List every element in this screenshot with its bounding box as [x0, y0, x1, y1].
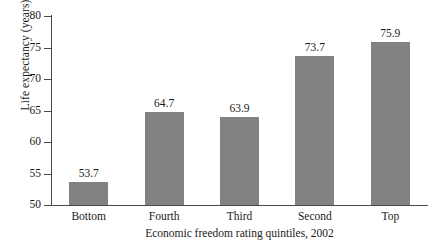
y-tick-label: 75 [0, 42, 41, 54]
y-tick-label-text: 70 [1, 73, 41, 85]
y-tick-mark [44, 174, 51, 175]
y-axis-line [51, 15, 52, 206]
y-tick-label-text: 50 [1, 199, 41, 211]
bar [69, 182, 108, 205]
bar-chart: Life expectancy (years) 50556065707580 5… [0, 0, 437, 247]
y-tick-label: 65 [0, 105, 41, 117]
y-tick-label-text: 75 [1, 42, 41, 54]
bar-value-label: 53.7 [59, 167, 119, 179]
bar-value-label: 73.7 [285, 41, 345, 53]
y-tick-label-text: 80 [1, 10, 41, 22]
x-axis-title: Economic freedom rating quintiles, 2002 [51, 227, 428, 240]
y-tick-label: 60 [0, 136, 41, 148]
x-axis-line [51, 205, 428, 206]
y-tick-mark [44, 16, 51, 17]
bar [371, 42, 410, 205]
bar [145, 112, 184, 205]
y-tick-label: 55 [0, 168, 41, 180]
y-tick-mark [44, 111, 51, 112]
bar-value-label: 64.7 [134, 97, 194, 109]
y-tick-label-text: 65 [1, 105, 41, 117]
x-category-label: Top [345, 210, 435, 223]
y-tick-mark [44, 48, 51, 49]
y-tick-mark [44, 79, 51, 80]
y-tick-mark [44, 142, 51, 143]
y-tick-label-text: 55 [1, 168, 41, 180]
y-tick-label: 50 [0, 199, 41, 211]
bar [220, 117, 259, 205]
y-tick-mark [44, 205, 51, 206]
y-tick-label-text: 60 [1, 136, 41, 148]
y-tick-label: 80 [0, 10, 41, 22]
bar [295, 56, 334, 205]
y-tick-label: 70 [0, 73, 41, 85]
bar-value-label: 75.9 [360, 27, 420, 39]
bar-value-label: 63.9 [210, 102, 270, 114]
